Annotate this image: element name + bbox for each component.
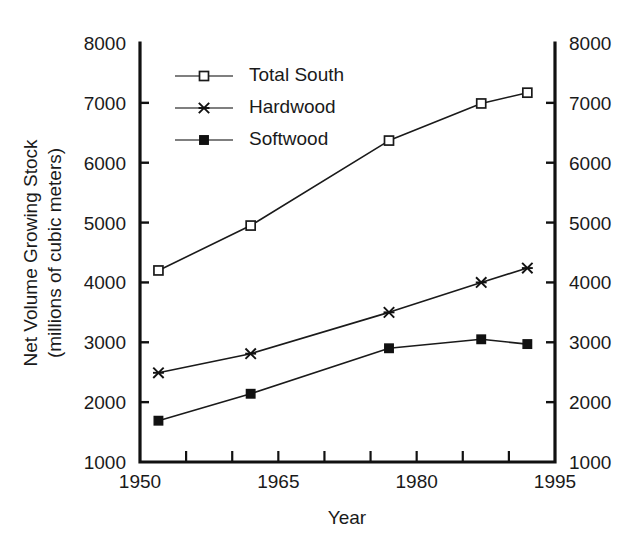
marker-open-square xyxy=(246,221,255,230)
marker-filled-square xyxy=(385,344,394,353)
y-tick-label-left: 1000 xyxy=(84,452,126,473)
marker-filled-square xyxy=(154,416,163,425)
y-tick-label-left: 2000 xyxy=(84,392,126,413)
x-tick-label: 1995 xyxy=(534,471,576,492)
y-tick-label-left: 4000 xyxy=(84,272,126,293)
y-tick-label-left: 5000 xyxy=(84,213,126,234)
marker-filled-square xyxy=(523,340,532,349)
legend-label: Total South xyxy=(249,64,344,85)
y-tick-label-left: 3000 xyxy=(84,332,126,353)
marker-open-square xyxy=(200,72,209,81)
y-tick-label-right: 1000 xyxy=(569,452,611,473)
y-tick-label-left: 7000 xyxy=(84,93,126,114)
x-tick-label: 1980 xyxy=(396,471,438,492)
legend-label: Hardwood xyxy=(249,96,336,117)
y-axis-title-line1: Net Volume Growing Stock xyxy=(20,139,41,367)
x-tick-label: 1965 xyxy=(257,471,299,492)
y-tick-label-right: 5000 xyxy=(569,213,611,234)
y-tick-label-right: 2000 xyxy=(569,392,611,413)
line-chart: 10002000300040005000600070008000 1000200… xyxy=(0,0,635,546)
y-axis-title-line2: (millions of cubic meters) xyxy=(44,148,65,358)
x-axis-title: Year xyxy=(328,507,367,528)
x-tick-label: 1950 xyxy=(119,471,161,492)
y-tick-label-right: 6000 xyxy=(569,153,611,174)
y-tick-label-right: 8000 xyxy=(569,33,611,54)
y-tick-label-right: 4000 xyxy=(569,272,611,293)
marker-open-square xyxy=(154,266,163,275)
marker-filled-square xyxy=(477,335,486,344)
marker-filled-square xyxy=(200,136,209,145)
marker-open-square xyxy=(523,88,532,97)
y-tick-label-left: 8000 xyxy=(84,33,126,54)
legend-label: Softwood xyxy=(249,128,328,149)
y-tick-label-right: 3000 xyxy=(569,332,611,353)
marker-filled-square xyxy=(246,390,255,399)
y-tick-label-right: 7000 xyxy=(569,93,611,114)
marker-open-square xyxy=(477,99,486,108)
chart-figure: 10002000300040005000600070008000 1000200… xyxy=(0,0,635,546)
y-tick-label-left: 6000 xyxy=(84,153,126,174)
marker-open-square xyxy=(385,136,394,145)
